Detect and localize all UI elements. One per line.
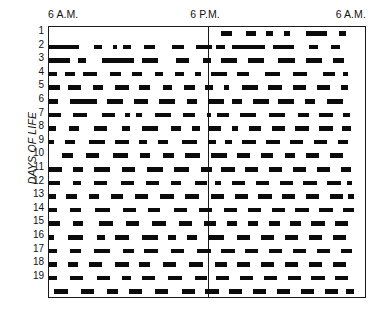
activity-bout-bar xyxy=(237,262,250,266)
activity-bout-bar xyxy=(224,85,229,89)
actogram-row xyxy=(49,167,366,171)
activity-bout-bar xyxy=(264,276,277,280)
activity-bout-bar xyxy=(285,262,298,266)
activity-bout-bar xyxy=(293,72,308,76)
activity-bout-bar xyxy=(339,31,346,35)
actogram-figure: 6 A.M. 6 P.M. 6 A.M. DAYS OF LIFE 123456… xyxy=(0,0,387,318)
activity-bout-bar xyxy=(217,113,229,117)
activity-bout-bar xyxy=(333,58,345,62)
day-label: 5 xyxy=(38,80,44,90)
activity-bout-bar xyxy=(205,85,213,89)
midnight-divider-line xyxy=(208,27,209,297)
activity-bout-bar xyxy=(171,126,182,130)
activity-bout-bar xyxy=(107,99,123,103)
activity-bout-bar xyxy=(121,181,134,185)
activity-bout-bar xyxy=(94,249,110,253)
activity-bout-bar xyxy=(248,208,261,212)
activity-bout-bar xyxy=(94,181,107,185)
activity-bout-bar xyxy=(49,276,57,280)
activity-bout-bar xyxy=(174,208,187,212)
activity-bout-bar xyxy=(175,72,184,76)
activity-bout-bar xyxy=(306,153,319,157)
activity-bout-bar xyxy=(330,194,343,198)
activity-bout-bar xyxy=(49,126,56,130)
activity-bout-bar xyxy=(142,58,158,62)
activity-bout-bar xyxy=(269,113,285,117)
day-label: 1 xyxy=(38,26,44,36)
activity-bout-bar xyxy=(49,181,60,185)
activity-bout-bar xyxy=(113,153,129,157)
activity-bout-bar xyxy=(309,262,322,266)
activity-bout-bar xyxy=(208,140,216,144)
activity-bout-bar xyxy=(215,262,227,266)
activity-bout-bar xyxy=(227,221,238,225)
activity-bout-bar xyxy=(126,221,139,225)
activity-bout-bar xyxy=(110,72,121,76)
actogram-row xyxy=(49,99,366,103)
day-label: 7 xyxy=(38,108,44,118)
time-label-middle: 6 P.M. xyxy=(190,8,220,21)
activity-bout-bar xyxy=(203,58,211,62)
actogram-row xyxy=(49,181,366,185)
activity-bout-bar xyxy=(306,58,322,62)
activity-bout-bar xyxy=(341,85,349,89)
day-label: 2 xyxy=(38,40,44,50)
activity-bout-bar xyxy=(152,221,165,225)
activity-bout-bar xyxy=(323,72,335,76)
activity-bout-bar xyxy=(327,181,340,185)
activity-bout-bar xyxy=(123,249,134,253)
activity-bout-bar xyxy=(229,289,242,293)
activity-bout-bar xyxy=(245,167,258,171)
activity-bout-bar xyxy=(311,276,324,280)
activity-bout-bar xyxy=(65,72,76,76)
activity-bout-bar xyxy=(139,140,147,144)
activity-bout-bar xyxy=(135,194,148,198)
activity-bout-bar xyxy=(311,221,324,225)
activity-bout-bar xyxy=(49,58,70,62)
activity-bout-bar xyxy=(83,72,96,76)
activity-bout-bar xyxy=(333,235,346,239)
activity-bout-bar xyxy=(49,72,57,76)
activity-bout-bar xyxy=(184,85,195,89)
activity-bout-bar xyxy=(211,194,224,198)
activity-bout-bar xyxy=(290,221,301,225)
activity-bout-bar xyxy=(192,126,200,130)
activity-bout-bar xyxy=(97,276,110,280)
activity-bout-bar xyxy=(346,289,354,293)
actogram-row xyxy=(49,235,366,239)
time-label-end: 6 A.M. xyxy=(336,8,366,21)
activity-bout-bar xyxy=(242,85,258,89)
activity-bout-bar xyxy=(49,221,60,225)
activity-bout-bar xyxy=(122,276,131,280)
actogram-row xyxy=(49,140,366,144)
activity-bout-bar xyxy=(122,126,130,130)
activity-bout-bar xyxy=(94,45,102,49)
activity-bout-bar xyxy=(285,153,296,157)
activity-bout-bar xyxy=(242,140,255,144)
activity-bout-bar xyxy=(70,276,83,280)
activity-bout-bar xyxy=(125,113,130,117)
activity-bout-bar xyxy=(94,167,110,171)
activity-bout-bar xyxy=(136,113,141,117)
activity-bout-bar xyxy=(245,249,258,253)
activity-bout-bar xyxy=(49,140,54,144)
activity-bout-bar xyxy=(261,235,274,239)
activity-bout-bar xyxy=(183,113,195,117)
activity-bout-bar xyxy=(266,31,273,35)
activity-bout-bar xyxy=(341,249,353,253)
activity-bout-bar xyxy=(70,99,97,103)
activity-bout-bar xyxy=(187,235,198,239)
activity-bout-bar xyxy=(111,194,123,198)
activity-bout-bar xyxy=(160,194,173,198)
activity-bout-bar xyxy=(265,72,280,76)
activity-bout-bar xyxy=(306,31,327,35)
activity-bout-bar xyxy=(327,99,343,103)
actogram-row xyxy=(49,31,366,35)
activity-bout-bar xyxy=(94,126,107,130)
activity-bout-bar xyxy=(268,85,283,89)
activity-bout-bar xyxy=(237,72,249,76)
day-label: 9 xyxy=(38,135,44,145)
activity-bout-bar xyxy=(158,140,169,144)
day-label: 13 xyxy=(33,189,44,199)
activity-bout-bar xyxy=(102,113,115,117)
